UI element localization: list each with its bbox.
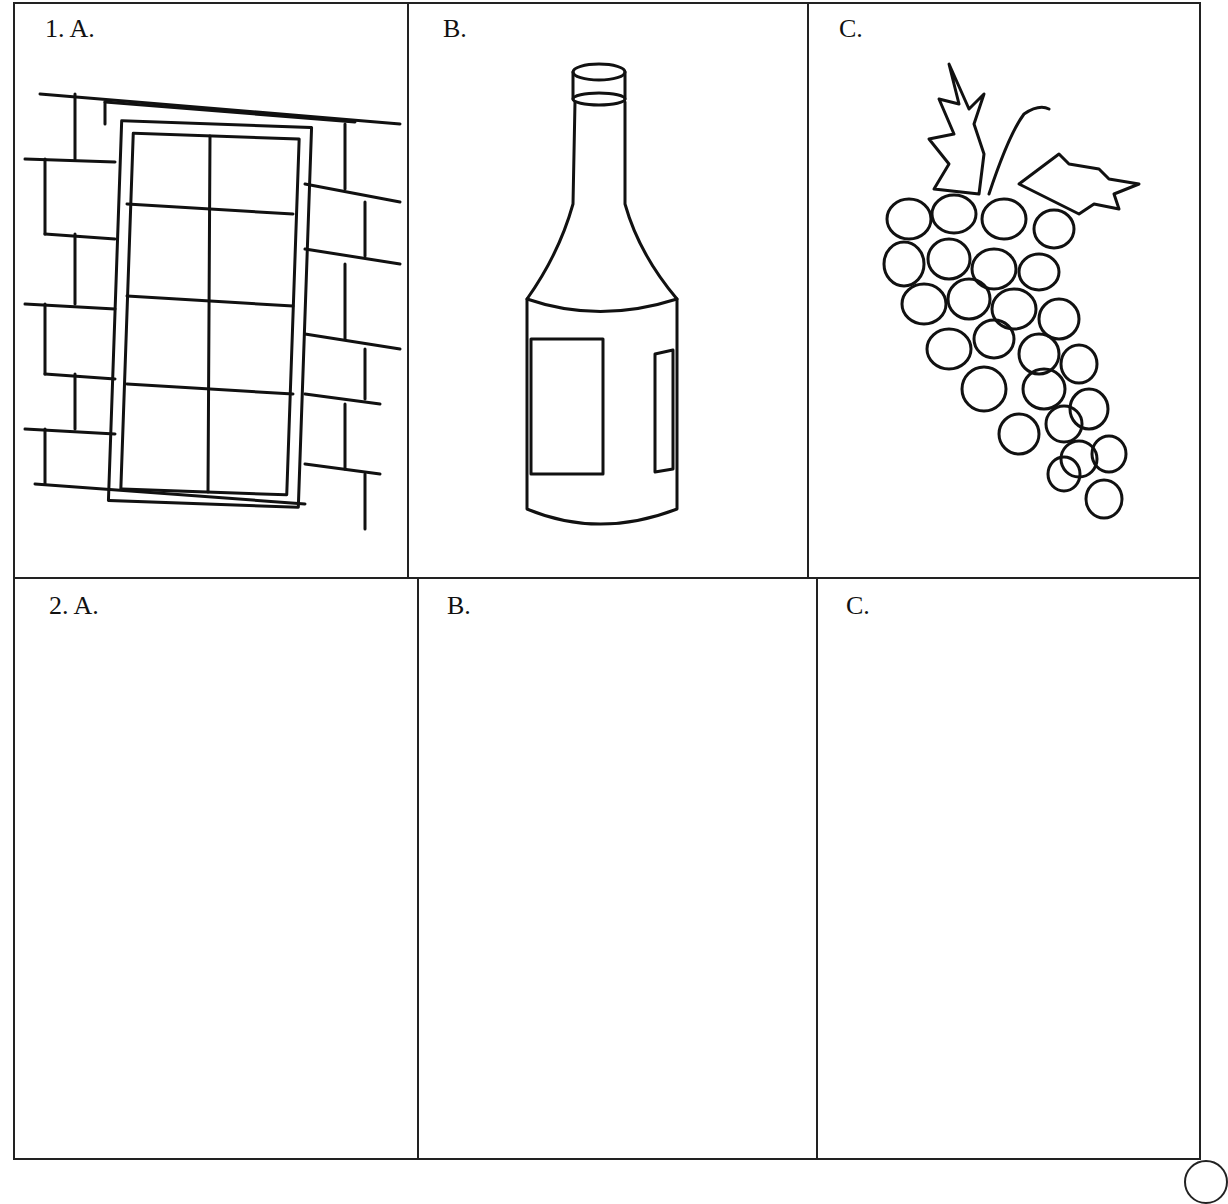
cell-2b[interactable]: B. bbox=[419, 579, 816, 1158]
bottle-icon bbox=[409, 4, 807, 577]
page-corner-mark bbox=[1184, 1160, 1228, 1204]
cell-label: 2. A. bbox=[49, 591, 99, 621]
window-icon bbox=[15, 74, 407, 574]
cell-label: B. bbox=[447, 591, 471, 621]
cell-2a[interactable]: 2. A. bbox=[15, 579, 417, 1158]
cell-label: C. bbox=[846, 591, 870, 621]
cell-1a: 1. A. bbox=[15, 4, 407, 577]
cell-2c[interactable]: C. bbox=[818, 579, 1199, 1158]
grapes-icon bbox=[809, 4, 1199, 577]
cell-label: 1. A. bbox=[45, 14, 95, 44]
cell-1b: B. bbox=[409, 4, 807, 577]
cell-1c: C. bbox=[809, 4, 1199, 577]
